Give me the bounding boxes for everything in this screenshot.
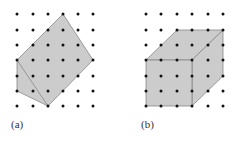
lattice-dot [176, 90, 179, 93]
lattice-dot [191, 29, 194, 32]
lattice-dot [47, 13, 50, 16]
lattice-dot [145, 90, 148, 93]
lattice-dot [47, 44, 50, 47]
lattice-dot [160, 44, 163, 47]
lattice-dot [77, 13, 80, 16]
lattice-dot [191, 75, 194, 78]
lattice-dot [145, 44, 148, 47]
lattice-dot [191, 105, 194, 108]
lattice-dot [32, 44, 35, 47]
lattice-dot [207, 105, 210, 108]
lattice-dot [222, 29, 225, 32]
lattice-dot [207, 75, 210, 78]
lattice-dot [207, 44, 210, 47]
lattice-dot [145, 29, 148, 32]
lattice-dot [47, 59, 50, 62]
lattice-dot [160, 90, 163, 93]
lattice-dot [222, 59, 225, 62]
lattice-dot [160, 13, 163, 16]
lattice-dot [222, 90, 225, 93]
lattice-dot [145, 75, 148, 78]
lattice-dot [160, 105, 163, 108]
lattice-dot [222, 75, 225, 78]
lattice-dot [92, 105, 95, 108]
lattice-dot [16, 75, 19, 78]
lattice-dot [191, 90, 194, 93]
lattice-dot [92, 13, 95, 16]
lattice-dot [47, 105, 50, 108]
lattice-dot [207, 13, 210, 16]
lattice-dot [92, 29, 95, 32]
lattice-dot [176, 13, 179, 16]
lattice-dot [16, 44, 19, 47]
lattice-dot [207, 29, 210, 32]
lattice-dot [176, 44, 179, 47]
lattice-dot [32, 59, 35, 62]
lattice-dot [191, 59, 194, 62]
lattice-dot [222, 105, 225, 108]
lattice-dot [191, 13, 194, 16]
lattice-dot [160, 75, 163, 78]
lattice-dot [92, 59, 95, 62]
lattice-dot [62, 75, 65, 78]
lattice-dot [176, 59, 179, 62]
lattice-dot [176, 105, 179, 108]
lattice-dot [32, 90, 35, 93]
lattice-figures [0, 0, 239, 141]
lattice-dot [92, 44, 95, 47]
lattice-dot [32, 13, 35, 16]
lattice-dot [16, 105, 19, 108]
lattice-dot [32, 29, 35, 32]
figure-a-label: (a) [11, 118, 23, 130]
lattice-dot [77, 75, 80, 78]
lattice-dot [145, 13, 148, 16]
lattice-dot [62, 59, 65, 62]
polygon-a [17, 14, 93, 106]
lattice-dot [62, 90, 65, 93]
lattice-dot [145, 105, 148, 108]
lattice-dot [16, 90, 19, 93]
lattice-dot [16, 29, 19, 32]
lattice-dot [176, 75, 179, 78]
lattice-dot [32, 75, 35, 78]
lattice-dot [32, 105, 35, 108]
lattice-dot [92, 90, 95, 93]
lattice-dot [160, 29, 163, 32]
lattice-dot [77, 29, 80, 32]
lattice-dot [62, 44, 65, 47]
lattice-dot [77, 105, 80, 108]
lattice-dot [92, 75, 95, 78]
lattice-dot [176, 29, 179, 32]
lattice-dot [222, 13, 225, 16]
figure-b-label: (b) [141, 118, 154, 130]
lattice-dot [77, 44, 80, 47]
figure-a [16, 13, 95, 108]
lattice-dot [62, 29, 65, 32]
figure-b [145, 13, 225, 108]
lattice-dot [62, 13, 65, 16]
lattice-dot [47, 29, 50, 32]
lattice-dot [191, 44, 194, 47]
lattice-dot [160, 59, 163, 62]
lattice-dot [222, 44, 225, 47]
lattice-dot [77, 90, 80, 93]
lattice-dot [145, 59, 148, 62]
lattice-dot [16, 13, 19, 16]
cube-front-face [146, 60, 192, 106]
lattice-dot [77, 59, 80, 62]
lattice-dot [47, 75, 50, 78]
lattice-dot [62, 105, 65, 108]
lattice-dot [207, 90, 210, 93]
lattice-dot [207, 59, 210, 62]
lattice-dot [16, 59, 19, 62]
lattice-dot [47, 90, 50, 93]
